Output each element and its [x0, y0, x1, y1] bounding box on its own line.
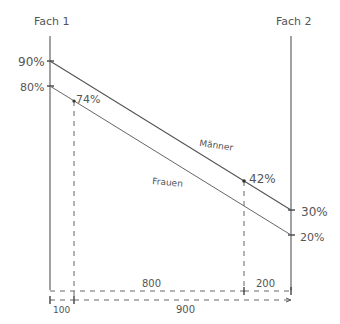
point-label-42: 42%	[249, 172, 276, 186]
dimension-label-900: 900	[176, 304, 195, 315]
frauen-label: Frauen	[152, 176, 183, 189]
right-tick-label-20: 20%	[300, 231, 324, 244]
dimension-label-100: 100	[53, 305, 70, 315]
diagram: Fach 1 Fach 2 90% 80% 30% 20% Männer Fra…	[0, 0, 340, 324]
left-tick-label-80: 80%	[20, 81, 44, 94]
left-axis-label: Fach 1	[34, 15, 70, 28]
frauen-line	[50, 86, 291, 235]
maenner-label: Männer	[199, 138, 234, 153]
right-axis-label: Fach 2	[276, 15, 312, 28]
dimension-label-200: 200	[256, 278, 275, 289]
right-tick-label-30: 30%	[301, 205, 328, 219]
left-tick-label-90: 90%	[18, 55, 45, 69]
dimension-label-800: 800	[142, 278, 161, 289]
point-label-74: 74%	[76, 93, 100, 106]
maenner-line	[50, 61, 291, 210]
point-42	[242, 179, 246, 183]
